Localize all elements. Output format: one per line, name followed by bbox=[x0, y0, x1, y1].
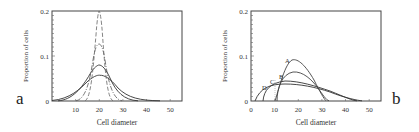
xtick-label: 50 bbox=[167, 106, 175, 114]
xtick-label: 20 bbox=[295, 106, 303, 114]
xtick-label: 50 bbox=[366, 106, 374, 114]
panel-letter-a: a bbox=[16, 89, 24, 108]
panel-b-chart: 0.2 0.1 0 0 10 20 30 40 50 Cell diameter… bbox=[221, 8, 381, 127]
curve-A bbox=[275, 60, 326, 101]
x-axis-label: Cell diameter bbox=[97, 118, 138, 127]
xtick-label: 40 bbox=[143, 106, 151, 114]
figure: 0.2 0.1 0 10 20 30 40 50 Cell diameter P… bbox=[0, 0, 419, 132]
plot-frame bbox=[52, 11, 182, 101]
xtick-label: 40 bbox=[342, 106, 350, 114]
curve-sd7 bbox=[52, 75, 160, 101]
curve-sd2 bbox=[85, 11, 113, 101]
ytick-label: 0 bbox=[46, 98, 50, 106]
ytick-label: 0.2 bbox=[239, 8, 248, 16]
xtick-label: 10 bbox=[72, 106, 80, 114]
y-axis-label: Proportion of cells bbox=[221, 30, 229, 82]
x-axis-label: Cell diameter bbox=[296, 118, 337, 127]
curve-label-A: A bbox=[285, 57, 290, 64]
ytick-label: 0.1 bbox=[239, 53, 248, 61]
xtick-label: 10 bbox=[271, 106, 279, 114]
xtick-label: 30 bbox=[119, 106, 127, 114]
ytick-label: 0.1 bbox=[40, 53, 49, 61]
xtick-label: 0 bbox=[249, 106, 253, 114]
curve-label-D: D bbox=[262, 84, 267, 91]
ytick-label: 0 bbox=[245, 98, 249, 106]
curve-label-B: B bbox=[279, 73, 284, 80]
y-axis-label: Proportion of cells bbox=[22, 30, 30, 82]
curve-B bbox=[277, 72, 329, 101]
curve-label-C: C bbox=[270, 78, 274, 85]
panel-a-chart: 0.2 0.1 0 10 20 30 40 50 Cell diameter P… bbox=[22, 8, 182, 127]
panel-letter-b: b bbox=[392, 89, 401, 108]
ytick-label: 0.2 bbox=[40, 8, 49, 16]
curve-sd3 bbox=[76, 44, 122, 101]
xtick-label: 20 bbox=[96, 106, 104, 114]
curve-D bbox=[255, 84, 362, 101]
xtick-label: 30 bbox=[318, 106, 326, 114]
